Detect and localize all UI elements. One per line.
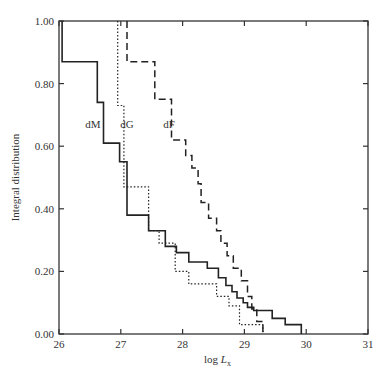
plot-border bbox=[59, 21, 368, 334]
axis-labels: 2627282930310.000.200.400.600.801.00log … bbox=[9, 15, 374, 368]
y-axis-label: Integral distribution bbox=[9, 133, 21, 221]
x-tick-label: 28 bbox=[177, 338, 189, 350]
series-dF bbox=[127, 21, 263, 334]
x-tick-label: 26 bbox=[54, 338, 66, 350]
plot-frame bbox=[59, 21, 368, 334]
series-label-dM: dM bbox=[85, 118, 101, 130]
y-tick-label: 0.20 bbox=[35, 265, 55, 277]
y-tick-label: 0.00 bbox=[35, 328, 55, 340]
x-tick-label: 30 bbox=[301, 338, 313, 350]
integral-distribution-chart: 2627282930310.000.200.400.600.801.00log … bbox=[0, 0, 388, 372]
y-tick-label: 1.00 bbox=[35, 15, 55, 27]
series-label-dG: dG bbox=[120, 118, 134, 130]
series-dM bbox=[62, 21, 301, 334]
y-tick-label: 0.40 bbox=[35, 203, 55, 215]
series-group bbox=[62, 21, 301, 334]
x-tick-label: 27 bbox=[115, 338, 127, 350]
x-tick-label: 29 bbox=[239, 338, 251, 350]
x-tick-label: 31 bbox=[363, 338, 374, 350]
x-axis-label: log Lx bbox=[204, 353, 231, 368]
series-label-dF: dF bbox=[163, 118, 175, 130]
series-dG bbox=[118, 21, 263, 334]
y-tick-label: 0.80 bbox=[35, 78, 55, 90]
y-tick-label: 0.60 bbox=[35, 140, 55, 152]
